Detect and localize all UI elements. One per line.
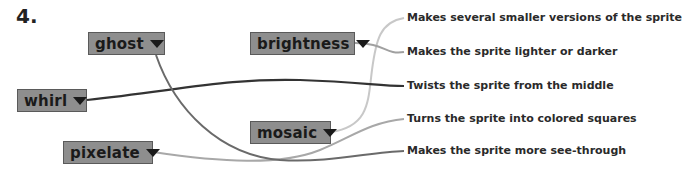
brightness-block[interactable]: brightness <box>250 32 355 55</box>
line-ghost-seethrough <box>156 55 404 161</box>
triangle-down-icon[interactable] <box>323 129 337 137</box>
mosaic-block[interactable]: mosaic <box>250 121 331 144</box>
description-twists: Twists the sprite from the middle <box>407 79 614 92</box>
description-lighter: Makes the sprite lighter or darker <box>407 45 617 58</box>
pixelate-block[interactable]: pixelate <box>63 141 153 164</box>
block-label: ghost <box>95 35 144 53</box>
description-squares: Turns the sprite into colored squares <box>407 112 637 125</box>
triangle-down-icon[interactable] <box>356 40 370 48</box>
ghost-block[interactable]: ghost <box>88 32 165 55</box>
triangle-down-icon[interactable] <box>146 149 160 157</box>
block-label: brightness <box>257 35 350 53</box>
line-whirl-twists <box>87 80 404 100</box>
block-label: whirl <box>24 92 67 110</box>
description-see-through: Makes the sprite more see-through <box>407 144 626 157</box>
triangle-down-icon[interactable] <box>150 40 164 48</box>
block-label: mosaic <box>257 124 317 142</box>
description-several: Makes several smaller versions of the sp… <box>407 11 682 24</box>
triangle-down-icon[interactable] <box>73 97 87 105</box>
block-label: pixelate <box>70 144 140 162</box>
whirl-block[interactable]: whirl <box>17 89 87 112</box>
